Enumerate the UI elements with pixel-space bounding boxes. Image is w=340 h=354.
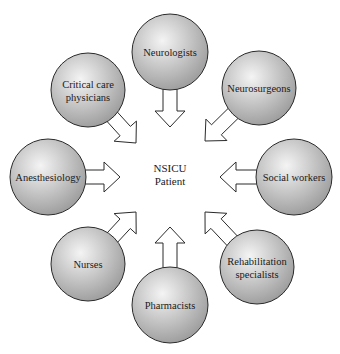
node-nurses: Nurses [51,227,125,301]
circle-rehabilitation-specialists [220,230,294,304]
arrow-social-workers [220,162,260,192]
diagram-canvas: NeurologistsNeurosurgeonsSocial workersR… [0,0,340,354]
arrow-anesthesiology [82,162,120,192]
arrow-pharmacists [155,227,185,271]
label-anesthesiology: Anesthesiology [15,172,81,183]
node-anesthesiology: Anesthesiology [10,139,86,215]
label-neurologists: Neurologists [143,47,197,58]
node-neurosurgeons: Neurosurgeons [222,51,296,125]
center-label-nsicu-patient: NSICUPatient [153,162,186,187]
node-critical-care-physicians: Critical carephysicians [51,53,125,127]
node-pharmacists: Pharmacists [132,267,208,343]
nsicu-team-diagram: NeurologistsNeurosurgeonsSocial workersR… [0,0,340,354]
label-social-workers: Social workers [263,172,326,183]
node-neurologists: Neurologists [132,14,208,90]
label-pharmacists: Pharmacists [145,300,196,311]
node-rehabilitation-specialists: Rehabilitationspecialists [220,230,294,304]
label-neurosurgeons: Neurosurgeons [227,83,290,94]
node-social-workers: Social workers [256,139,332,215]
arrow-neurologists [155,86,185,127]
circle-critical-care-physicians [51,53,125,127]
label-nurses: Nurses [73,259,102,270]
